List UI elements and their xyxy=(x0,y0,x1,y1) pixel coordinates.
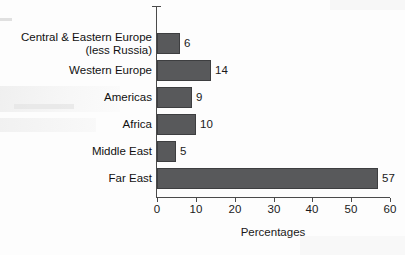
x-tick-label: 20 xyxy=(220,203,250,216)
x-tick-mark xyxy=(351,198,352,202)
x-tick-label: 60 xyxy=(375,203,405,216)
y-axis-cap xyxy=(152,6,161,7)
bar-value-label: 10 xyxy=(200,119,213,131)
category-label: Middle East xyxy=(0,145,152,158)
category-label: Central & Eastern Europe (less Russia) xyxy=(0,31,152,56)
x-tick-mark xyxy=(390,198,391,202)
bar xyxy=(157,87,192,108)
bar-row: 10 xyxy=(157,114,236,135)
bar-value-label: 9 xyxy=(196,92,202,104)
x-tick-label: 30 xyxy=(259,203,289,216)
x-tick-mark xyxy=(235,198,236,202)
bar-value-label: 6 xyxy=(184,38,190,50)
category-label: Far East xyxy=(0,172,152,185)
bar-value-label: 5 xyxy=(180,146,186,158)
category-label: Western Europe xyxy=(0,64,152,77)
scan-artifact xyxy=(14,104,74,109)
x-axis-line xyxy=(156,197,390,198)
bar-row: 5 xyxy=(157,141,216,162)
scan-artifact xyxy=(300,236,405,255)
x-tick-label: 0 xyxy=(142,203,172,216)
x-tick-mark xyxy=(157,198,158,202)
x-tick-mark xyxy=(312,198,313,202)
bar-value-label: 14 xyxy=(215,65,228,77)
bar-row: 14 xyxy=(157,60,251,81)
x-axis-title: Percentages xyxy=(156,226,390,238)
bar-row: 6 xyxy=(157,33,220,54)
scan-artifact xyxy=(0,18,12,21)
bar-row: 9 xyxy=(157,87,232,108)
x-tick-label: 10 xyxy=(181,203,211,216)
x-tick-label: 40 xyxy=(297,203,327,216)
x-tick-mark xyxy=(196,198,197,202)
bar-row: 57 xyxy=(157,168,405,189)
x-tick-mark xyxy=(274,198,275,202)
bar xyxy=(157,141,176,162)
scan-artifact xyxy=(330,0,405,10)
x-tick-label: 50 xyxy=(336,203,366,216)
category-label: Americas xyxy=(0,91,152,104)
category-label: Africa xyxy=(0,118,152,131)
bar-chart: Central & Eastern Europe (less Russia)We… xyxy=(0,0,405,255)
bar xyxy=(157,33,180,54)
bar-value-label: 57 xyxy=(382,173,395,185)
bar xyxy=(157,60,211,81)
bar xyxy=(157,168,378,189)
bar xyxy=(157,114,196,135)
